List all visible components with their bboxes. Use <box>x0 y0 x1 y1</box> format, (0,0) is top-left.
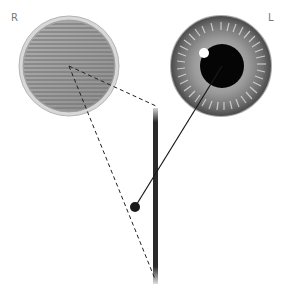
vertical-bar <box>153 108 158 284</box>
eye-iris <box>171 16 271 116</box>
dashed-sight-line-lower <box>69 66 155 279</box>
stereo-vision-diagram <box>0 0 285 291</box>
target-dot <box>130 202 140 212</box>
eye-highlight <box>199 48 209 58</box>
